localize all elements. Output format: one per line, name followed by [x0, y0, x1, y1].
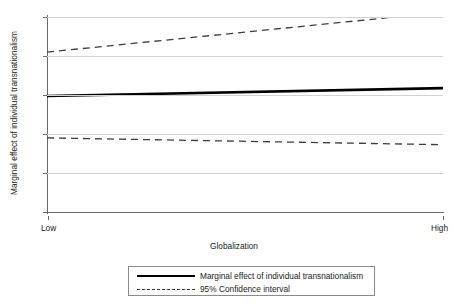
- x-tick-label-low: Low: [41, 223, 56, 233]
- x-tick-mark-low: [48, 216, 49, 220]
- ci-upper-line: [47, 17, 443, 52]
- gridline-0.04: [47, 134, 443, 135]
- x-tick-mark-high: [443, 216, 444, 220]
- gridline-0.02: [47, 173, 443, 174]
- legend-label-marginal-effect: Marginal effect of individual transnatio…: [200, 271, 363, 281]
- x-tick-label-high: High: [431, 223, 448, 233]
- gridline-0.1: [47, 17, 443, 18]
- legend-item-confidence-interval: 95% Confidence interval: [129, 282, 374, 296]
- y-axis-title: Marginal effect of individual transnatio…: [9, 13, 19, 213]
- gridline-0.06: [47, 95, 443, 96]
- legend-solid-line-sample: [137, 271, 195, 281]
- chart-legend: Marginal effect of individual transnatio…: [128, 266, 375, 296]
- legend-dashed-line-sample: [137, 284, 195, 294]
- marginal-effects-chart: Marginal effect of individual transnatio…: [0, 0, 468, 305]
- x-axis-title: Globalization: [0, 241, 468, 251]
- series-svg: [47, 17, 443, 212]
- ci-lower-line: [47, 138, 443, 145]
- legend-item-marginal-effect: Marginal effect of individual transnatio…: [129, 269, 374, 283]
- legend-label-confidence-interval: 95% Confidence interval: [200, 284, 290, 294]
- plot-area: [47, 17, 443, 212]
- x-axis-line: [47, 212, 444, 213]
- gridline-0.08: [47, 56, 443, 57]
